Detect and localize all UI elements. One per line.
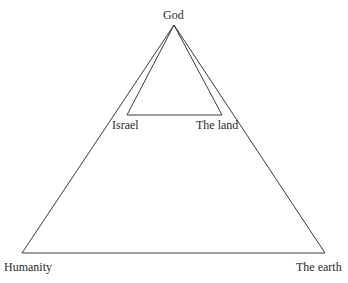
outer-triangle — [22, 25, 325, 253]
label-humanity: Humanity — [4, 261, 52, 273]
inner-triangle — [127, 25, 222, 115]
label-israel: Israel — [112, 119, 139, 131]
label-god: God — [163, 9, 184, 21]
diagram-lines — [0, 0, 348, 283]
triangle-diagram: God Israel The land Humanity The earth — [0, 0, 348, 283]
label-the-land: The land — [196, 119, 238, 131]
label-the-earth: The earth — [296, 261, 342, 273]
